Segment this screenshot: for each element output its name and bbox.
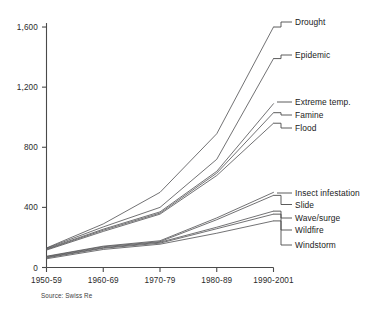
series-label: Drought (295, 17, 326, 27)
series-line (47, 27, 274, 248)
series-label: Insect infestation (295, 188, 360, 198)
y-tick-label: 0 (33, 264, 38, 273)
series-label: Epidemic (295, 50, 330, 60)
x-axis-group: 1950-591960-691970-791980-891990-2001 (31, 268, 294, 285)
series-line (47, 113, 274, 250)
y-tick-marks (42, 27, 47, 267)
y-tick-label: 1,200 (17, 83, 39, 92)
disaster-frequency-line-chart: 04008001,2001,600 1950-591960-691970-791… (0, 0, 366, 311)
x-tick-label: 1980-89 (201, 276, 232, 285)
series-leader-lines-group (274, 22, 293, 245)
series-leader-line (274, 195, 293, 204)
series-line (47, 192, 274, 256)
series-label: Windstorm (295, 240, 336, 250)
y-axis-group: 04008001,2001,600 (17, 23, 47, 272)
series-line (47, 59, 274, 249)
series-leader-line (274, 22, 293, 27)
series-leader-line (274, 113, 293, 115)
series-line (47, 104, 274, 249)
series-label: Wave/surge (295, 213, 341, 223)
series-leader-line (274, 221, 293, 245)
series-leader-line (274, 214, 293, 230)
series-label: Flood (295, 123, 317, 133)
x-tick-label: 1970-79 (144, 276, 175, 285)
series-label: Extreme temp. (295, 97, 351, 107)
x-tick-label: 1990-2001 (253, 276, 294, 285)
series-lines-group (47, 27, 274, 259)
x-tick-label: 1950-59 (31, 276, 62, 285)
series-line (47, 123, 274, 250)
y-tick-label: 1,600 (17, 23, 39, 32)
series-label: Slide (295, 200, 314, 210)
series-labels-group: DroughtEpidemicExtreme temp.FamineFloodI… (295, 17, 360, 250)
y-tick-label: 400 (24, 203, 38, 212)
series-leader-line (274, 123, 293, 128)
series-label: Wildfire (295, 225, 324, 235)
source-note: Source: Swiss Re (41, 292, 93, 299)
series-line (47, 221, 274, 259)
y-tick-labels: 04008001,2001,600 (17, 23, 39, 272)
series-line (47, 195, 274, 256)
x-tick-labels: 1950-591960-691970-791980-891990-2001 (31, 276, 294, 285)
x-tick-label: 1960-69 (88, 276, 119, 285)
series-label: Famine (295, 110, 324, 120)
series-leader-line (274, 55, 293, 59)
x-tick-marks (47, 268, 274, 273)
y-tick-label: 800 (24, 143, 38, 152)
chart-canvas: 04008001,2001,600 1950-591960-691970-791… (0, 0, 366, 311)
